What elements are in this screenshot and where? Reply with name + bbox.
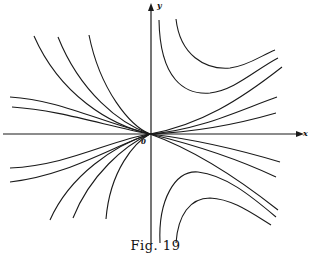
figure-caption: Fig. 19 [0, 238, 311, 253]
trajectory-curves [10, 19, 282, 243]
trajectory-curve-upper-left-0 [34, 36, 150, 134]
trajectory-curve-lower-right-15 [150, 134, 280, 162]
trajectory-curve-upper-right-6 [150, 97, 277, 134]
trajectory-curve-upper-left-4 [12, 107, 150, 134]
phase-portrait-diagram [0, 0, 311, 259]
trajectory-curve-upper-right-9 [176, 19, 275, 68]
trajectory-curve-upper-left-1 [58, 37, 150, 134]
trajectory-curve-lower-left-12 [50, 134, 150, 220]
trajectory-curve-lower-right-19 [176, 198, 271, 243]
origin-label: 0 [141, 137, 146, 146]
y-axis-arrow-icon [148, 3, 154, 11]
trajectory-curve-lower-left-13 [73, 134, 150, 218]
trajectory-curve-upper-left-2 [89, 35, 150, 134]
trajectory-curve-lower-left-11 [10, 134, 150, 182]
trajectory-curve-upper-left-3 [10, 97, 150, 134]
x-axis-label: x [303, 128, 308, 138]
trajectory-curve-upper-right-5 [150, 67, 282, 134]
y-axis-label: y [157, 0, 162, 10]
trajectory-curve-upper-right-7 [150, 113, 276, 134]
